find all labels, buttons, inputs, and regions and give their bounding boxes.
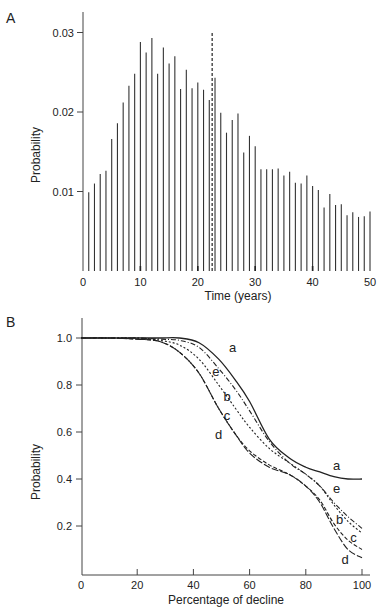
y-tick-label: 0.01 bbox=[53, 186, 74, 198]
x-tick-label: 0 bbox=[78, 579, 84, 591]
curve-label-c: c bbox=[350, 530, 357, 545]
curve-c bbox=[81, 338, 362, 550]
curve-label-a: a bbox=[333, 458, 341, 473]
x-tick-label: 10 bbox=[134, 276, 146, 288]
chart-a: 0.010.020.03 01020304050 Time (years) Pr… bbox=[29, 12, 376, 303]
chart-b-x-label: Percentage of decline bbox=[168, 593, 284, 607]
x-tick-label: 40 bbox=[187, 579, 199, 591]
curve-label-a: a bbox=[229, 340, 237, 355]
y-tick-label: 0.2 bbox=[57, 520, 72, 532]
curve-a bbox=[81, 338, 362, 480]
chart-b-curve-labels: aebcdaebcd bbox=[212, 340, 357, 566]
curve-label-c: c bbox=[224, 408, 231, 423]
x-tick-label: 20 bbox=[131, 579, 143, 591]
y-tick-label: 0.03 bbox=[53, 27, 74, 39]
panel-label-b: B bbox=[6, 314, 15, 330]
x-tick-label: 100 bbox=[353, 579, 371, 591]
curve-label-b: b bbox=[336, 512, 343, 527]
chart-b-x-ticks: 020406080100 bbox=[78, 569, 371, 591]
y-tick-label: 1.0 bbox=[57, 332, 72, 344]
curve-label-e: e bbox=[333, 481, 340, 496]
figure: A B 0.010.020.03 01020304050 Time (years… bbox=[0, 0, 384, 613]
x-tick-label: 20 bbox=[192, 276, 204, 288]
x-tick-label: 40 bbox=[306, 276, 318, 288]
chart-a-x-ticks: 01020304050 bbox=[80, 266, 376, 288]
x-tick-label: 0 bbox=[80, 276, 86, 288]
chart-b-y-ticks: 0.20.40.60.81.0 bbox=[57, 332, 82, 532]
curve-label-d: d bbox=[215, 427, 222, 442]
chart-b-curves bbox=[81, 338, 362, 558]
x-tick-label: 50 bbox=[364, 276, 376, 288]
y-tick-label: 0.6 bbox=[57, 426, 72, 438]
chart-a-y-ticks: 0.010.020.03 bbox=[53, 27, 83, 198]
chart-a-y-label: Probability bbox=[29, 127, 43, 183]
chart-a-x-label: Time (years) bbox=[205, 289, 272, 303]
curve-label-e: e bbox=[212, 364, 219, 379]
x-tick-label: 80 bbox=[300, 579, 312, 591]
panel-label-a: A bbox=[6, 10, 16, 26]
chart-b: 0.20.40.60.81.0 020406080100 aebcdaebcd … bbox=[29, 318, 371, 607]
chart-b-y-label: Probability bbox=[29, 444, 43, 500]
y-tick-label: 0.4 bbox=[57, 473, 72, 485]
y-tick-label: 0.02 bbox=[53, 106, 74, 118]
curve-label-d: d bbox=[342, 552, 349, 567]
chart-a-bars bbox=[89, 38, 370, 271]
y-tick-label: 0.8 bbox=[57, 379, 72, 391]
curve-d bbox=[81, 338, 362, 558]
x-tick-label: 30 bbox=[249, 276, 261, 288]
x-tick-label: 60 bbox=[243, 579, 255, 591]
curve-label-b: b bbox=[224, 389, 231, 404]
